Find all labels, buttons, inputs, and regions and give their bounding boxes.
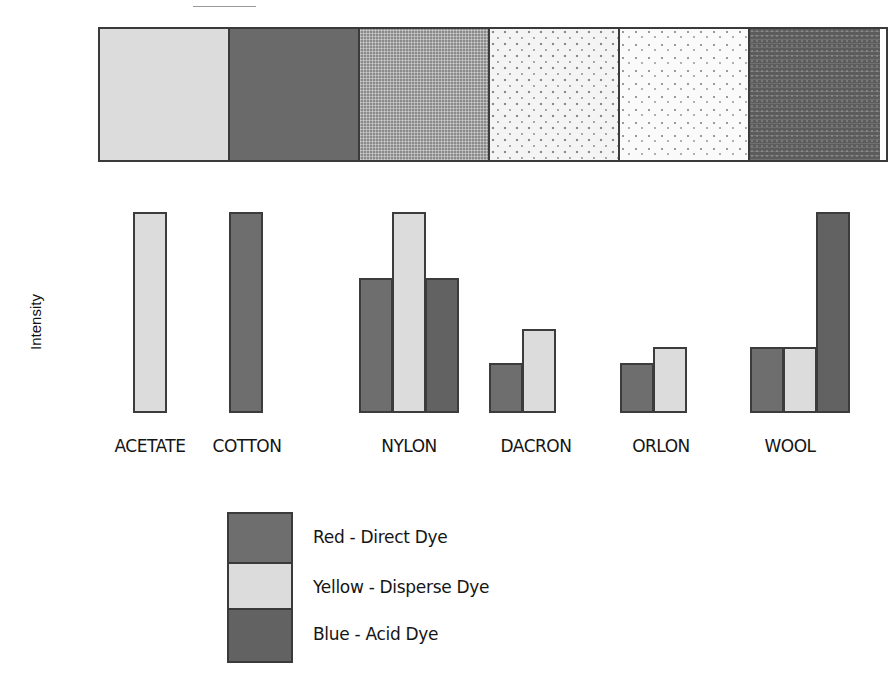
swatch-nylon (360, 29, 490, 160)
bar-acetate-yellow (133, 212, 167, 413)
swatch-dacron (490, 29, 620, 160)
bar-dacron-red (489, 363, 523, 413)
swatch-acetate (100, 29, 230, 160)
bar-nylon-yellow (392, 212, 426, 413)
category-label-acetate: ACETATE (115, 436, 186, 456)
bar-nylon-blue (425, 278, 459, 413)
bar-nylon-red (359, 278, 393, 413)
bar-orlon-yellow (653, 347, 687, 413)
category-label-dacron: DACRON (501, 436, 572, 456)
bar-cotton-red (229, 212, 263, 413)
category-label-orlon: ORLON (632, 436, 690, 456)
bar-orlon-red (620, 363, 654, 413)
swatch-wool (750, 29, 880, 160)
bar-wool-yellow (783, 347, 817, 413)
y-axis-label: Intensity (27, 294, 44, 350)
top-rule-line (193, 6, 256, 7)
bar-wool-red (750, 347, 784, 413)
legend-label-red: Red - Direct Dye (313, 527, 447, 547)
legend-swatch-yellow (229, 564, 291, 610)
legend-label-yellow: Yellow - Disperse Dye (313, 577, 489, 597)
category-label-wool: WOOL (764, 436, 815, 456)
fabric-swatch-strip (98, 27, 888, 162)
legend-swatch-red (229, 514, 291, 564)
swatch-cotton (230, 29, 360, 160)
legend-swatch-stack (227, 512, 293, 663)
category-label-nylon: NYLON (381, 436, 437, 456)
swatch-orlon (620, 29, 750, 160)
bar-dacron-yellow (522, 329, 556, 413)
bar-wool-blue (816, 212, 850, 413)
category-label-cotton: COTTON (213, 436, 282, 456)
legend-swatch-blue (229, 610, 291, 661)
legend-label-blue: Blue - Acid Dye (313, 624, 438, 644)
